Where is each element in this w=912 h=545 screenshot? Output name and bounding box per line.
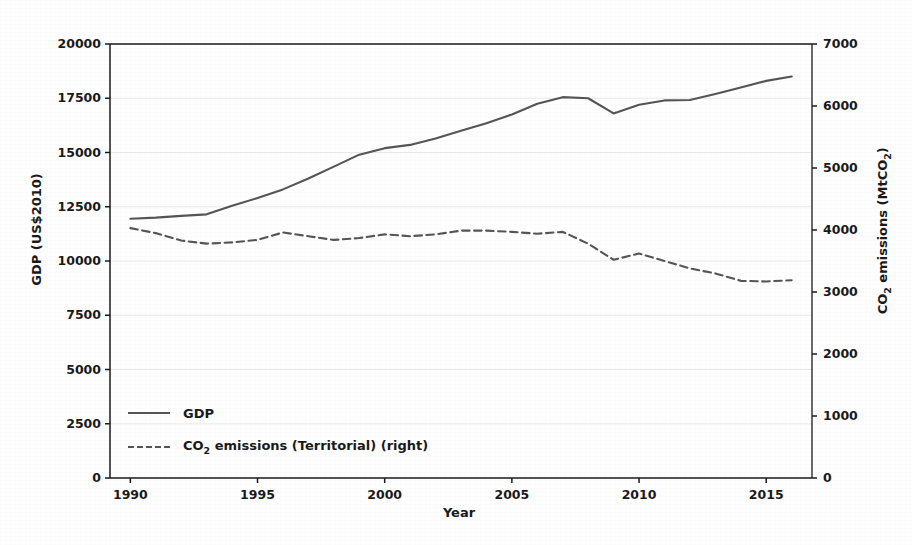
chart-figure: GDP (US$2010) CO2 emissions (MtCO2) Year… xyxy=(0,0,912,545)
y-axis-right-tick-label: 0 xyxy=(823,470,893,485)
y-axis-left-tick-label: 15000 xyxy=(31,145,101,160)
y-axis-left-tick-label: 12500 xyxy=(31,199,101,214)
y-axis-right-tick-label: 6000 xyxy=(823,98,893,113)
y-axis-left-tick-label: 20000 xyxy=(31,36,101,51)
x-axis-tick-label: 1990 xyxy=(95,487,165,502)
legend-item-co2[interactable]: CO2 emissions (Territorial) (right) xyxy=(128,430,458,464)
legend-label-gdp: GDP xyxy=(183,406,214,421)
x-axis-tick-label: 2000 xyxy=(350,487,420,502)
legend-line-swatch-solid xyxy=(128,412,170,414)
legend-label-co2-part1: CO xyxy=(183,438,204,453)
x-axis-tick-label: 2015 xyxy=(731,487,801,502)
legend-label-co2: CO2 emissions (Territorial) (right) xyxy=(183,438,428,456)
y-axis-left-tick-label: 7500 xyxy=(31,307,101,322)
series-line-co2-emissions xyxy=(130,228,791,281)
legend-line-swatch-dashed xyxy=(128,446,170,448)
y-axis-left-tick-label: 10000 xyxy=(31,253,101,268)
legend-item-gdp[interactable]: GDP xyxy=(128,396,458,430)
y-axis-right-tick-label: 2000 xyxy=(823,346,893,361)
x-axis-tick-label: 1995 xyxy=(223,487,293,502)
y-axis-right-tick-label: 3000 xyxy=(823,284,893,299)
legend-label-co2-part2: emissions (Territorial) (right) xyxy=(210,438,428,453)
y-axis-left-tick-label: 5000 xyxy=(31,362,101,377)
y-axis-right-tick-label: 5000 xyxy=(823,160,893,175)
x-axis-tick-label: 2010 xyxy=(604,487,674,502)
y-axis-right-tick-label: 1000 xyxy=(823,408,893,423)
y-axis-right-tick-label: 7000 xyxy=(823,36,893,51)
x-axis-tick-label: 2005 xyxy=(477,487,547,502)
chart-legend: GDP CO2 emissions (Territorial) (right) xyxy=(128,396,458,464)
y-axis-left-tick-label: 0 xyxy=(31,470,101,485)
y-axis-right-tick-label: 4000 xyxy=(823,222,893,237)
y-axis-left-tick-label: 2500 xyxy=(31,416,101,431)
y-axis-left-tick-label: 17500 xyxy=(31,90,101,105)
